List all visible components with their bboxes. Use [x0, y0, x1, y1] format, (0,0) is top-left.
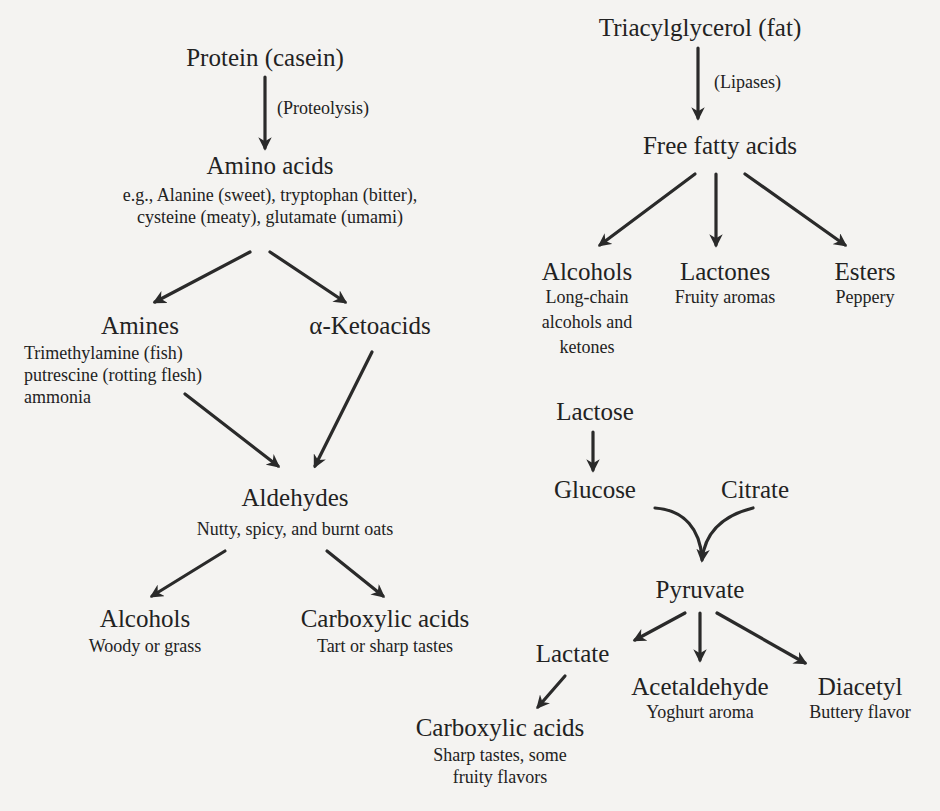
node-glucose: Glucose: [540, 476, 650, 504]
node-title: Lactones: [665, 258, 785, 286]
node-title: Amino acids: [60, 152, 480, 180]
node-acetaldehyde: Acetaldehyde Yoghurt aroma: [610, 673, 790, 723]
node-desc: Sharp tastes, some: [395, 744, 605, 766]
node-title: Diacetyl: [790, 673, 930, 701]
node-lactones: Lactones Fruity aromas: [665, 258, 785, 308]
node-desc: cysteine (meaty), glutamate (umami): [60, 206, 480, 228]
node-title: Amines: [50, 312, 230, 340]
node-free-fatty-acids: Free fatty acids: [630, 132, 810, 160]
node-amines: Amines: [50, 312, 230, 340]
node-alcohols-protein: Alcohols Woody or grass: [60, 605, 230, 657]
node-desc: Nutty, spicy, and burnt oats: [150, 518, 440, 540]
node-alpha-ketoacids: α-Ketoacids: [290, 312, 450, 340]
node-lactose: Lactose: [545, 398, 645, 426]
node-title: Esters: [815, 258, 915, 286]
label-lipases: (Lipases): [714, 72, 781, 93]
node-desc: Woody or grass: [60, 635, 230, 657]
node-desc: ammonia: [24, 386, 202, 408]
arrow-amino-acids-to-ketoacids: [270, 252, 345, 302]
node-aldehydes: Aldehydes Nutty, spicy, and burnt oats: [150, 484, 440, 540]
node-title: α-Ketoacids: [290, 312, 450, 340]
node-carboxylic-acids-protein: Carboxylic acids Tart or sharp tastes: [280, 605, 490, 657]
node-title: Lactose: [545, 398, 645, 426]
arrow-amino-acids-to-amines: [155, 252, 250, 302]
node-title: Lactate: [525, 640, 620, 668]
node-desc: putrescine (rotting flesh): [24, 364, 202, 386]
node-title: Acetaldehyde: [610, 673, 790, 701]
arrow-glucose-to-pyruvate: [655, 508, 702, 558]
node-desc: Peppery: [815, 286, 915, 308]
arrow-ketoacids-to-aldehydes: [315, 352, 372, 466]
arrow-pyruvate-to-lactate: [635, 613, 685, 640]
arrow-aldehydes-to-alcohols: [152, 551, 225, 596]
node-alcohols-fat: Alcohols Long-chain alcohols and ketones: [522, 258, 652, 358]
node-desc: Buttery flavor: [790, 701, 930, 723]
node-lactate: Lactate: [525, 640, 620, 668]
node-diacetyl: Diacetyl Buttery flavor: [790, 673, 930, 723]
node-desc: Tart or sharp tastes: [280, 635, 490, 657]
arrow-ffa-to-alcohols: [600, 174, 695, 245]
node-pyruvate: Pyruvate: [645, 576, 755, 604]
node-esters: Esters Peppery: [815, 258, 915, 308]
node-title: Glucose: [540, 476, 650, 504]
node-title: Aldehydes: [150, 484, 440, 512]
node-desc: Yoghurt aroma: [610, 701, 790, 723]
node-protein-casein: Protein (casein): [160, 44, 370, 72]
arrow-pyruvate-to-diacetyl: [717, 613, 805, 663]
node-desc: alcohols and: [522, 311, 652, 333]
label-proteolysis: (Proteolysis): [277, 98, 369, 119]
node-desc: e.g., Alanine (sweet), tryptophan (bitte…: [60, 184, 480, 206]
node-title: Citrate: [710, 476, 800, 504]
node-title: Triacylglycerol (fat): [580, 14, 820, 42]
flavor-pathway-diagram: Protein (casein) (Proteolysis) Amino aci…: [0, 0, 940, 811]
node-amino-acids: Amino acids e.g., Alanine (sweet), trypt…: [60, 152, 480, 228]
node-title: Carboxylic acids: [280, 605, 490, 633]
node-desc: ketones: [522, 336, 652, 358]
node-desc: fruity flavors: [395, 766, 605, 788]
node-desc: Fruity aromas: [665, 286, 785, 308]
arrow-lactate-to-carboxylic-acids: [538, 676, 565, 707]
node-desc: Long-chain: [522, 286, 652, 308]
arrow-ffa-to-esters: [745, 174, 845, 245]
node-title: Carboxylic acids: [395, 714, 605, 742]
node-carboxylic-acids-lactose: Carboxylic acids Sharp tastes, some frui…: [395, 714, 605, 788]
node-amines-desc: Trimethylamine (fish) putrescine (rottin…: [24, 342, 202, 408]
node-title: Alcohols: [522, 258, 652, 286]
node-triacylglycerol: Triacylglycerol (fat): [580, 14, 820, 42]
arrow-citrate-to-pyruvate: [702, 508, 753, 560]
node-title: Alcohols: [60, 605, 230, 633]
node-desc: Trimethylamine (fish): [24, 342, 202, 364]
node-title: Protein (casein): [160, 44, 370, 72]
arrow-aldehydes-to-carboxylic-acids: [327, 551, 383, 596]
node-title: Pyruvate: [645, 576, 755, 604]
node-title: Free fatty acids: [630, 132, 810, 160]
node-citrate: Citrate: [710, 476, 800, 504]
